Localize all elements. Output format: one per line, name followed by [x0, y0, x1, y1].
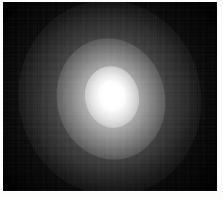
sensor-noise-overlay: [3, 2, 217, 191]
source-inner-halo: [44, 27, 178, 172]
source-core-glow: [79, 61, 145, 133]
corner-vignette: [3, 2, 217, 191]
source-outer-envelope: [3, 2, 217, 191]
astronomical-image-plate: [3, 2, 217, 191]
figure-alt-text: Grayscale astronomical image of a diffus…: [0, 0, 1, 1]
caption-strip: [0, 192, 223, 199]
source-core-peak: [95, 78, 128, 114]
figure-root: Grayscale astronomical image of a diffus…: [0, 0, 223, 199]
image-frame: [3, 2, 217, 191]
block-noise-texture: [17, 8, 207, 186]
source-mid-halo: [3, 2, 217, 191]
